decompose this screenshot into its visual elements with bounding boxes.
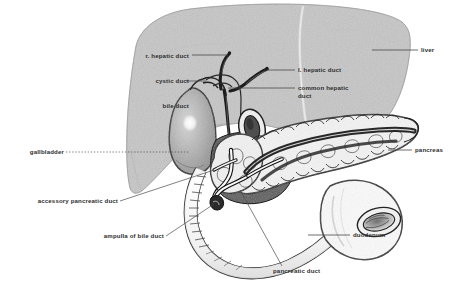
label-common-hepatic-duct: common hepatic duct — [298, 84, 350, 99]
label-accessory-pancreatic-duct: accessory pancreatic duct — [14, 197, 118, 205]
label-r-hepatic-duct: r. hepatic duct — [131, 52, 189, 60]
anatomical-figure: r. hepatic duct cystic duct bile duct l.… — [0, 0, 463, 287]
label-pancreatic-duct: pancreatic duct — [273, 267, 320, 275]
label-pancreas: pancreas — [415, 146, 443, 154]
label-bile-duct: bile duct — [131, 102, 189, 110]
label-gallbladder: gallbladder — [16, 148, 64, 156]
label-liver: liver — [421, 46, 434, 54]
label-cystic-duct: cystic duct — [131, 77, 189, 85]
ampulla-of-bile-duct — [210, 196, 224, 210]
anatomy-illustration — [0, 0, 463, 287]
label-l-hepatic-duct: l. hepatic duct — [298, 66, 341, 74]
label-ampulla-of-bile-duct: ampulla of bile duct — [80, 232, 164, 240]
label-duodenum: duodenum — [353, 231, 385, 239]
